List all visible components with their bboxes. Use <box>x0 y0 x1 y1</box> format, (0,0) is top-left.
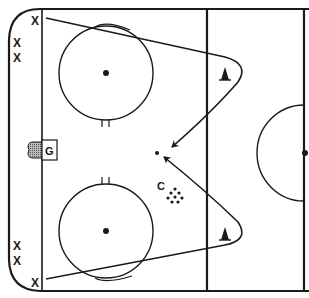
player-waiting-top-1: X <box>13 36 21 50</box>
net <box>28 142 42 158</box>
center-circle-half <box>257 105 304 201</box>
pass-target-puck <box>155 151 159 155</box>
player-forward-top: X <box>31 14 39 28</box>
coach-label: C <box>157 180 165 192</box>
player-waiting-top-2: X <box>13 51 21 65</box>
puck-pile <box>166 187 183 203</box>
skating-path-bottom <box>46 157 242 279</box>
cone-top-icon <box>219 67 231 80</box>
player-waiting-bottom-2: X <box>13 254 21 268</box>
player-forward-bottom: X <box>31 276 39 290</box>
goalie-label: G <box>45 145 54 157</box>
faceoff-dot-top <box>103 70 109 76</box>
cone-bottom-icon <box>219 227 231 240</box>
drill-diagram: G X X X X X X C <box>0 0 309 298</box>
center-faceoff-dot <box>302 150 308 156</box>
player-waiting-bottom-1: X <box>13 239 21 253</box>
faceoff-dot-bottom <box>103 228 109 234</box>
